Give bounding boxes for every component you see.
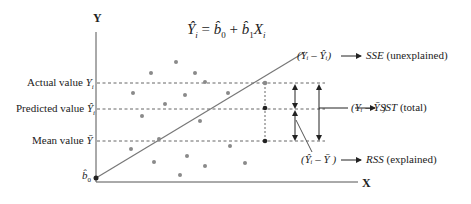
predicted-point — [263, 106, 268, 111]
intercept-label: b̂0 — [82, 170, 91, 184]
scatter-points — [129, 60, 247, 177]
predicted-value-label: Predicted value Ŷi — [16, 103, 95, 117]
intercept-sub: 0 — [88, 176, 92, 184]
sse-term: SSE — [366, 49, 384, 61]
rss-annotation: (Ŷᵢ – Ȳ ) — [301, 154, 336, 165]
sse-term-label: SSE (unexplained) — [366, 50, 448, 61]
regression-line — [96, 52, 305, 178]
rss-term: RSS — [366, 153, 384, 165]
actual-point — [263, 81, 268, 86]
predicted-text: Predicted value — [16, 102, 87, 114]
sse-desc: (unexplained) — [384, 49, 448, 61]
sst-desc: (total) — [397, 101, 427, 113]
x-var: X — [254, 21, 263, 37]
equals: = — [198, 21, 214, 37]
actual-value-label: Actual value Yi — [27, 77, 94, 91]
mean-point — [263, 139, 268, 144]
x-axis-label: X — [362, 177, 371, 189]
sst-term-label: SST (total) — [380, 102, 427, 113]
rss-leader — [296, 120, 312, 152]
mean-value-label: Mean value Ȳ — [32, 135, 93, 146]
mean-text: Mean value — [32, 134, 86, 146]
regression-equation: Ŷi = b̂0 + b̂1Xi — [187, 22, 265, 40]
actual-sub: i — [92, 83, 94, 91]
intercept-point — [94, 176, 99, 181]
sse-annotation: (Yᵢ – Ŷᵢ) — [297, 50, 331, 61]
plus: + — [226, 21, 242, 37]
actual-text: Actual value — [27, 76, 86, 88]
rss-expr: (Ŷᵢ – Ȳ ) — [301, 153, 336, 165]
sse-expr: (Yᵢ – Ŷᵢ) — [297, 49, 331, 61]
mean-sym: Ȳ — [86, 134, 92, 146]
rss-desc: (explained) — [384, 153, 437, 165]
x-sub: i — [263, 30, 266, 40]
sst-term: SST — [380, 101, 397, 113]
rss-term-label: RSS (explained) — [366, 154, 437, 165]
y-axis-label: Y — [93, 12, 102, 24]
predicted-sub: i — [93, 109, 95, 117]
